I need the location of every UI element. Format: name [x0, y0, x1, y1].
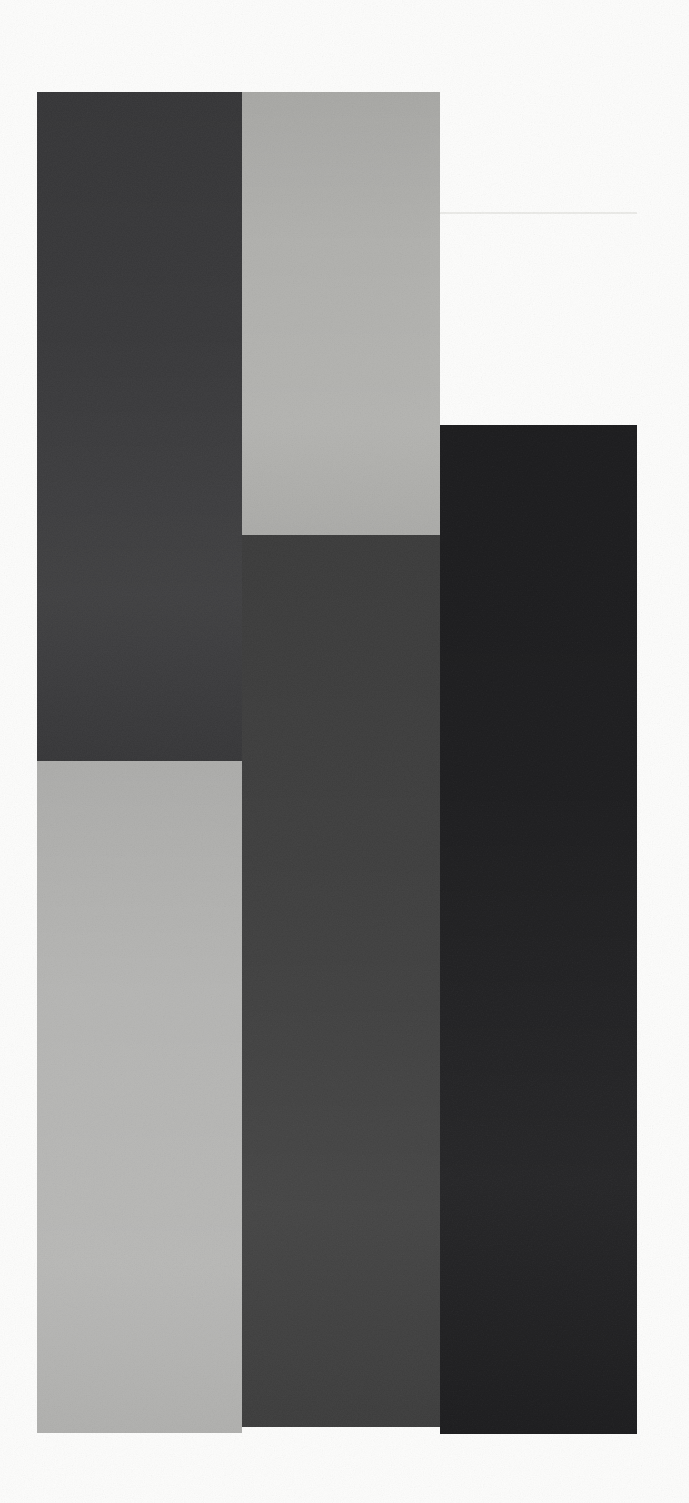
- paper-seam-line: [440, 212, 637, 214]
- block-black-right: [440, 425, 637, 1434]
- artwork-canvas: [0, 0, 689, 1503]
- block-lightgray-left-bottom: [37, 761, 242, 1433]
- block-lightgray-middle-top: [242, 92, 440, 535]
- block-darkgray-middle-bottom: [242, 535, 440, 1427]
- block-charcoal-left-top: [37, 92, 242, 761]
